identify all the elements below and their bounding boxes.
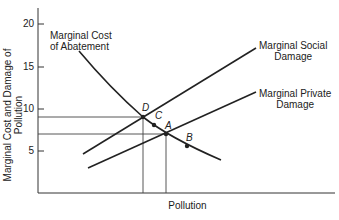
- msd-label: Marginal Social Damage: [259, 40, 327, 62]
- mca-label-line2: of Abatement: [50, 41, 112, 52]
- y-axis-label: Marginal Cost and Damage of Pollution: [2, 40, 24, 190]
- point-d-marker: [141, 115, 145, 119]
- mpd-label: Marginal Private Damage: [259, 88, 331, 110]
- msd-line: [83, 48, 256, 154]
- msd-label-line2: Damage: [259, 51, 327, 62]
- y-tick-label-20: 20: [18, 19, 34, 29]
- point-a-marker: [164, 132, 168, 136]
- point-c-marker: [152, 123, 156, 127]
- point-b-label: B: [186, 132, 193, 143]
- mpd-label-line1: Marginal Private: [259, 88, 331, 99]
- point-c-label: C: [155, 110, 162, 121]
- point-a-label: A: [165, 120, 172, 131]
- msd-label-line1: Marginal Social: [259, 40, 327, 51]
- point-d-label: D: [142, 102, 149, 113]
- mca-label-line1: Marginal Cost: [50, 30, 112, 41]
- mpd-label-line2: Damage: [259, 99, 331, 110]
- point-b-marker: [185, 144, 189, 148]
- x-axis-label: Pollution: [0, 200, 339, 211]
- mpd-line: [88, 92, 256, 168]
- mca-label: Marginal Cost of Abatement: [50, 30, 112, 52]
